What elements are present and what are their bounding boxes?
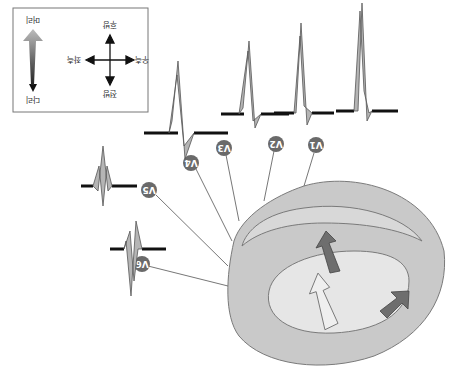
svg-text:V3: V3	[217, 143, 230, 153]
lead-marker-v1: V1	[308, 137, 324, 153]
ecg-trace-v5	[81, 146, 137, 206]
svg-text:V2: V2	[269, 139, 282, 149]
lead-marker-v5: V5	[141, 182, 157, 198]
legend-label-head: 머리	[26, 15, 40, 24]
lead-marker-v3: V3	[216, 140, 232, 156]
legend-label-left: 좌측	[67, 55, 81, 64]
heart-cross-section	[228, 181, 445, 365]
legend-label-anterior: 전방	[102, 89, 117, 99]
ecg-trace-v2	[274, 23, 334, 125]
ecg-trace-v4	[144, 61, 228, 159]
ecg-trace-v1	[336, 3, 398, 121]
ecg-trace-v3	[221, 41, 289, 128]
lead-marker-v2: V2	[268, 136, 284, 152]
legend-label-right: 우측	[135, 55, 149, 64]
orientation-legend: 전방 후방 우측 좌측 다리 머리	[13, 8, 149, 112]
ecg-precordial-diagram: 전방 후방 우측 좌측 다리 머리	[0, 0, 464, 391]
legend-label-posterior: 후방	[102, 20, 117, 30]
legend-label-legs: 다리	[26, 95, 40, 104]
svg-text:V6: V6	[135, 259, 148, 269]
svg-text:V5: V5	[142, 185, 155, 195]
svg-text:V1: V1	[309, 140, 322, 150]
svg-text:V4: V4	[184, 158, 197, 168]
